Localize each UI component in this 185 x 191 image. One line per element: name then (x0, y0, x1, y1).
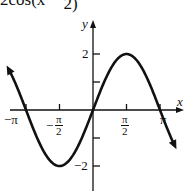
x-axis-label: x (177, 95, 183, 108)
tick-label-pi: π (160, 113, 167, 126)
chart-title: 2cos(x − 2) (0, 0, 78, 12)
tick-label-neg-half-pi: π2 (55, 114, 63, 137)
tick-label-half-pi: π2 (121, 114, 129, 137)
tick-label-y-neg-2: −2 (74, 159, 88, 172)
tick-label-neg-pi: −π (4, 113, 18, 126)
tick-label-neg-sign: − (46, 119, 53, 132)
y-axis-label: y (82, 17, 88, 30)
tick-label-y-2: 2 (82, 47, 89, 60)
sine-graph (0, 0, 185, 191)
y-axis-arrow-icon (90, 20, 96, 28)
